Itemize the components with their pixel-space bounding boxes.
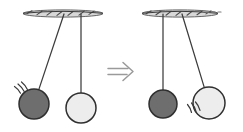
pendulum-bob-dark <box>19 89 49 119</box>
pendulum-bob-dark <box>149 90 177 118</box>
pendulum-diagram-canvas <box>0 0 243 132</box>
pendulum-figure: Coupled pendulums energy transfer diagra… <box>0 0 243 132</box>
pendulum-bob-light <box>66 93 96 123</box>
ceiling-support-bar-after <box>142 10 221 17</box>
pendulum-bob-light <box>193 87 225 119</box>
